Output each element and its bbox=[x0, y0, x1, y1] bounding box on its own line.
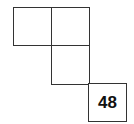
cell-label-48: 48 bbox=[98, 94, 117, 111]
cell-row1-col2 bbox=[51, 7, 90, 46]
cell-row3-col3: 48 bbox=[88, 83, 127, 122]
cell-row2-col2 bbox=[51, 45, 90, 85]
cell-row1-col1 bbox=[13, 7, 52, 46]
